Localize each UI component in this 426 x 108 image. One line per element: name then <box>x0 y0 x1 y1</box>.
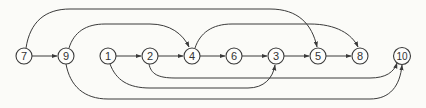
node-label: 5 <box>315 50 321 62</box>
node-label: 7 <box>21 50 27 62</box>
edge-2-10 <box>149 63 397 78</box>
node-label: 2 <box>147 50 153 62</box>
edges <box>26 9 402 99</box>
node-8: 8 <box>352 48 368 64</box>
node-3: 3 <box>268 48 284 64</box>
edge-9-10 <box>66 64 402 99</box>
node-4: 4 <box>184 48 200 64</box>
directed-graph: 7 9 1 2 4 6 3 5 <box>0 0 426 108</box>
node-7: 7 <box>16 48 32 64</box>
node-2: 2 <box>142 48 158 64</box>
node-label: 8 <box>357 50 363 62</box>
node-10: 10 <box>394 48 411 65</box>
edge-4-8 <box>195 24 358 48</box>
edge-1-3 <box>110 64 275 88</box>
node-label: 3 <box>273 50 279 62</box>
node-label: 9 <box>63 50 69 62</box>
node-label: 6 <box>231 50 237 62</box>
node-9: 9 <box>58 48 74 64</box>
node-6: 6 <box>226 48 242 64</box>
node-label: 10 <box>396 51 408 62</box>
node-label: 1 <box>105 50 111 62</box>
edge-9-4 <box>69 24 189 48</box>
node-label: 4 <box>189 50 195 62</box>
node-1: 1 <box>100 48 116 64</box>
node-5: 5 <box>310 48 326 64</box>
